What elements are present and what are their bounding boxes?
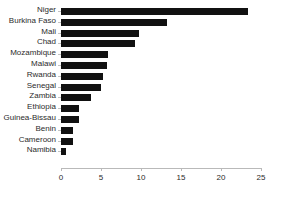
bar bbox=[61, 62, 107, 69]
category-label: Mozambique bbox=[0, 49, 56, 57]
bar bbox=[61, 19, 167, 26]
bar bbox=[61, 51, 108, 58]
category-tick bbox=[58, 97, 61, 98]
category-label: Cameroon bbox=[0, 136, 56, 144]
bar bbox=[61, 73, 103, 80]
category-axis-labels: NigerBurkina FasoMaliChadMozambiqueMalaw… bbox=[0, 6, 56, 168]
bar bbox=[61, 127, 73, 134]
category-tick bbox=[58, 141, 61, 142]
bar-row bbox=[61, 6, 261, 17]
category-label: Zambia bbox=[0, 92, 56, 100]
category-tick bbox=[58, 108, 61, 109]
x-tick-label: 20 bbox=[217, 173, 226, 182]
x-tick-label: 25 bbox=[257, 173, 266, 182]
category-tick bbox=[58, 65, 61, 66]
category-tick bbox=[58, 22, 61, 23]
bar bbox=[61, 84, 101, 91]
bar-row bbox=[61, 146, 261, 157]
category-tick bbox=[58, 130, 61, 131]
category-tick bbox=[58, 151, 61, 152]
bar-chart: NigerBurkina FasoMaliChadMozambiqueMalaw… bbox=[0, 0, 281, 200]
bar-row bbox=[61, 136, 261, 147]
x-tick-mark bbox=[221, 168, 222, 171]
x-tick-mark bbox=[101, 168, 102, 171]
category-tick bbox=[58, 76, 61, 77]
category-tick bbox=[58, 11, 61, 12]
bar bbox=[61, 116, 79, 123]
category-tick bbox=[58, 87, 61, 88]
category-label: Niger bbox=[0, 6, 56, 14]
bar bbox=[61, 40, 135, 47]
bar bbox=[61, 138, 73, 145]
x-tick-mark bbox=[61, 168, 62, 171]
bar-row bbox=[61, 38, 261, 49]
x-tick-mark bbox=[141, 168, 142, 171]
category-tick bbox=[58, 54, 61, 55]
category-label: Namibia bbox=[0, 146, 56, 154]
bar-row bbox=[61, 103, 261, 114]
bar bbox=[61, 8, 248, 15]
bar-row bbox=[61, 82, 261, 93]
bar-row bbox=[61, 60, 261, 71]
x-tick-mark bbox=[181, 168, 182, 171]
category-label: Guinea-Bissau bbox=[0, 114, 56, 122]
category-label: Ethiopia bbox=[0, 103, 56, 111]
category-label: Benin bbox=[0, 125, 56, 133]
bar bbox=[61, 94, 91, 101]
category-tick bbox=[58, 33, 61, 34]
x-axis: 0510152025 bbox=[61, 168, 262, 190]
bar bbox=[61, 148, 66, 155]
bar bbox=[61, 105, 79, 112]
bar-row bbox=[61, 17, 261, 28]
category-tick bbox=[58, 43, 61, 44]
bar-row bbox=[61, 28, 261, 39]
x-tick-label: 5 bbox=[99, 173, 103, 182]
category-label: Rwanda bbox=[0, 71, 56, 79]
bar-row bbox=[61, 114, 261, 125]
category-label: Burkina Faso bbox=[0, 17, 56, 25]
x-tick-label: 10 bbox=[137, 173, 146, 182]
category-label: Senegal bbox=[0, 82, 56, 90]
x-tick-label: 15 bbox=[177, 173, 186, 182]
x-tick-mark bbox=[261, 168, 262, 171]
bar-row bbox=[61, 125, 261, 136]
category-label: Malawi bbox=[0, 60, 56, 68]
category-label: Mali bbox=[0, 28, 56, 36]
category-label: Chad bbox=[0, 38, 56, 46]
bar-row bbox=[61, 49, 261, 60]
bar bbox=[61, 30, 139, 37]
x-tick-label: 0 bbox=[59, 173, 63, 182]
category-tick bbox=[58, 119, 61, 120]
bar-row bbox=[61, 71, 261, 82]
plot-area bbox=[61, 6, 261, 168]
bar-row bbox=[61, 92, 261, 103]
